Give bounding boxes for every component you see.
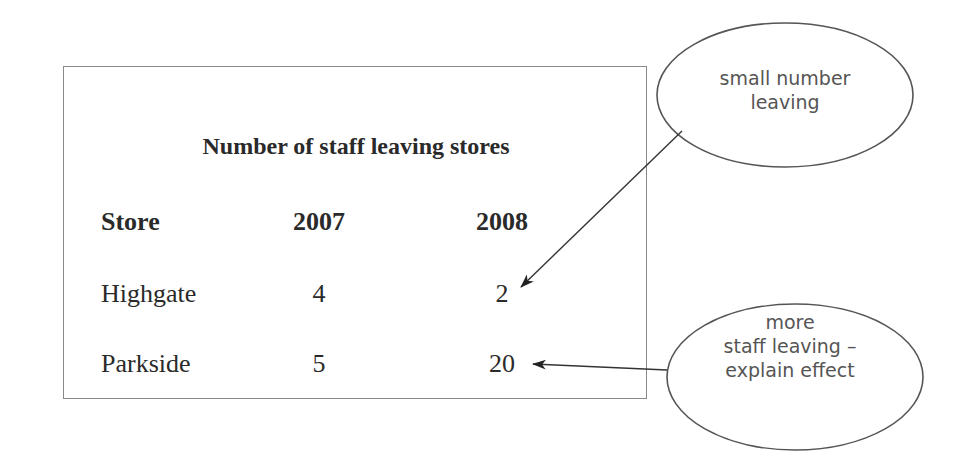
callout-top-line-2: leaving bbox=[680, 90, 890, 114]
arrow-to-highgate-2008 bbox=[521, 131, 682, 287]
callout-text-top: small number leaving bbox=[680, 66, 890, 114]
callout-text-bottom: more staff leaving – explain effect bbox=[690, 310, 890, 382]
callout-top-line-1: small number bbox=[680, 66, 890, 90]
arrow-to-parkside-2008 bbox=[533, 364, 667, 370]
callout-bottom-line-3: explain effect bbox=[690, 358, 890, 382]
callout-bottom-line-2: staff leaving – bbox=[690, 334, 890, 358]
callout-bottom-line-1: more bbox=[690, 310, 890, 334]
